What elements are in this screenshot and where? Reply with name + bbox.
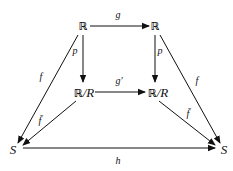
label-f-left: f (40, 72, 43, 82)
node-top-left: ℝ (79, 20, 88, 32)
node-mid-right: ℝ/R (148, 86, 168, 99)
label-fbar-left: f̄ (39, 116, 42, 126)
label-h: h (116, 156, 121, 166)
blackboard-R: ℝ (74, 87, 83, 100)
label-fbar-right: f̄ (187, 109, 190, 119)
node-bottom-right: S (221, 143, 228, 156)
label-f-right: f (196, 76, 199, 86)
arrow-fbar-left (23, 101, 76, 145)
arrow-f-left (18, 35, 78, 143)
blackboard-R: ℝ (148, 87, 157, 100)
node-top-right: ℝ (151, 20, 160, 32)
label-g: g (116, 10, 121, 20)
label-p-right: p (158, 46, 163, 56)
set-S: S (10, 142, 17, 157)
quotient-R: /R (83, 85, 95, 100)
node-bottom-left: S (10, 143, 17, 156)
node-mid-left: ℝ/R (74, 86, 94, 99)
label-p-left: p (73, 46, 78, 56)
set-S: S (221, 142, 228, 157)
quotient-R: /R (157, 85, 169, 100)
arrow-f-right (160, 35, 220, 143)
label-g-prime: g′ (115, 76, 122, 86)
blackboard-R: ℝ (151, 20, 160, 33)
blackboard-R: ℝ (79, 20, 88, 33)
